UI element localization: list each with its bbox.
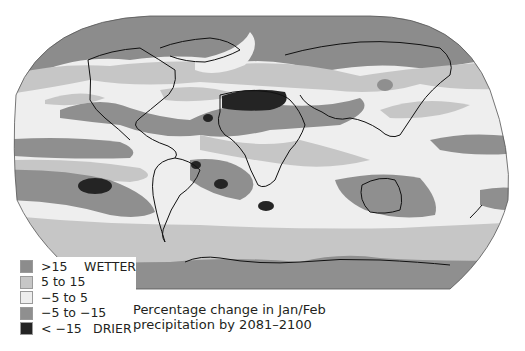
- legend-item-much-drier: < −15 DRIER: [6, 321, 136, 337]
- legend-label: >15: [41, 260, 84, 274]
- caption-line-2: precipitation by 2081–2100: [133, 317, 326, 332]
- legend-item-drier: −5 to −15: [6, 306, 136, 322]
- legend-item-neutral: −5 to 5: [6, 290, 136, 306]
- legend-swatch: [20, 260, 33, 273]
- legend: >15 WETTER 5 to 15 −5 to 5 −5 to −15 < −…: [6, 257, 136, 337]
- legend-tag: DRIER: [93, 322, 132, 336]
- legend-swatch: [20, 322, 33, 335]
- precipitation-zones: [0, 0, 525, 300]
- legend-swatch: [20, 276, 33, 289]
- legend-label: −5 to 5: [41, 291, 93, 305]
- legend-label: 5 to 15: [41, 275, 93, 289]
- legend-swatch: [20, 291, 33, 304]
- world-precipitation-map: [0, 0, 525, 300]
- caption-line-1: Percentage change in Jan/Feb: [133, 302, 326, 317]
- map-caption: Percentage change in Jan/Feb precipitati…: [133, 302, 326, 332]
- legend-item-wetter: 5 to 15: [6, 275, 136, 291]
- legend-label: < −15: [41, 322, 93, 336]
- legend-swatch: [20, 307, 33, 320]
- legend-tag: WETTER: [84, 260, 136, 274]
- legend-label: −5 to −15: [41, 306, 93, 320]
- legend-item-much-wetter: >15 WETTER: [6, 259, 136, 275]
